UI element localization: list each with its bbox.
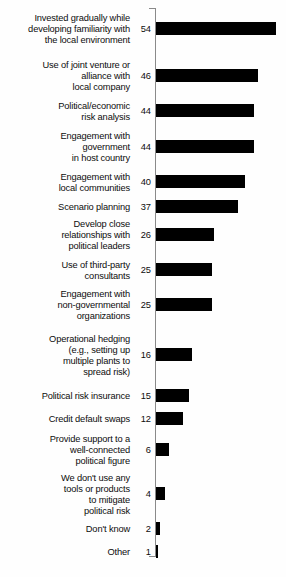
bar-value-label: 16: [133, 350, 151, 361]
bar: [156, 140, 254, 153]
bar: [156, 522, 160, 535]
bar: [156, 104, 254, 117]
bar: [156, 348, 192, 361]
bar-category-label: Political risk insurance: [2, 391, 130, 402]
bar: [156, 443, 169, 456]
bar-category-label: Don't know: [2, 524, 130, 535]
bar-category-label: Use of joint venture or alliance with lo…: [2, 60, 130, 93]
bar-category-label: Invested gradually while developing fami…: [2, 13, 130, 46]
bar-value-label: 25: [133, 265, 151, 276]
horizontal-bar-chart: Invested gradually while developing fami…: [0, 0, 286, 577]
bar: [156, 487, 165, 500]
bar: [156, 69, 258, 82]
bar: [156, 200, 238, 213]
bar-value-label: 44: [133, 142, 151, 153]
bar: [156, 263, 212, 276]
bar: [156, 298, 212, 311]
bar-category-label: Engagement with government in host count…: [2, 131, 130, 164]
bar-category-label: Engagement with local communities: [2, 172, 130, 194]
bar-category-label: We don't use any tools or products to mi…: [2, 473, 130, 517]
bar: [156, 545, 158, 558]
bar-value-label: 6: [133, 445, 151, 456]
bar-category-label: Operational hedging (e.g., setting up mu…: [2, 334, 130, 378]
bar-category-label: Credit default swaps: [2, 414, 130, 425]
bar: [156, 389, 189, 402]
bar-value-label: 46: [133, 71, 151, 82]
bar-rows-container: Invested gradually while developing fami…: [0, 0, 286, 577]
bar-value-label: 12: [133, 414, 151, 425]
bar-category-label: Other: [2, 547, 130, 558]
bar: [156, 175, 245, 188]
bar: [156, 412, 183, 425]
bar-category-label: Scenario planning: [2, 202, 130, 213]
bar: [156, 228, 214, 241]
bar-value-label: 37: [133, 202, 151, 213]
bar-value-label: 15: [133, 391, 151, 402]
bar-value-label: 1: [133, 547, 151, 558]
bar-category-label: Develop close relationships with politic…: [2, 219, 130, 252]
bar-category-label: Use of third-party consultants: [2, 260, 130, 282]
bar-value-label: 40: [133, 177, 151, 188]
bar-value-label: 44: [133, 106, 151, 117]
bar-value-label: 4: [133, 489, 151, 500]
bar-category-label: Provide support to a well-connected poli…: [2, 434, 130, 467]
bar-category-label: Engagement with non-governmental organiz…: [2, 289, 130, 322]
bar-category-label: Political/economic risk analysis: [2, 101, 130, 123]
bar-value-label: 2: [133, 524, 151, 535]
bar: [156, 22, 276, 35]
bar-value-label: 25: [133, 300, 151, 311]
bar-value-label: 54: [133, 24, 151, 35]
bar-value-label: 26: [133, 230, 151, 241]
